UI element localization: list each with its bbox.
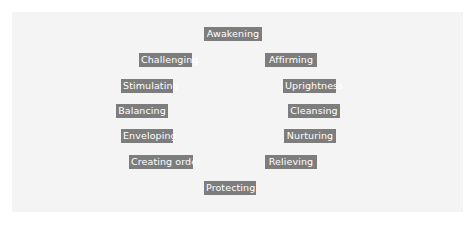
label-stimulating: Stimulating	[121, 79, 173, 93]
label-affirming: Affirming	[265, 53, 317, 67]
label-balancing: Balancing	[116, 104, 168, 118]
label-awakening: Awakening	[204, 27, 262, 41]
label-protecting: Protecting	[204, 181, 256, 195]
label-relieving: Relieving	[265, 155, 317, 169]
label-challenging: Challenging	[139, 53, 192, 67]
label-cleansing: Cleansing	[288, 104, 340, 118]
label-creating-order: Creating order	[129, 155, 193, 169]
label-nurturing: Nurturing	[284, 129, 336, 143]
label-enveloping: Enveloping	[121, 129, 173, 143]
label-uprightness: Uprightness	[283, 79, 336, 93]
